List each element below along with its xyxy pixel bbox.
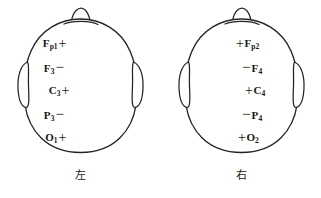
caption-left: 左 <box>0 166 160 182</box>
head-figure-left: Fp1+ F3− C3+ P3− O1+ 左 <box>0 0 160 198</box>
head-outline <box>185 19 298 153</box>
ear-left-icon <box>179 62 190 108</box>
ear-right-icon <box>293 62 304 108</box>
head-outline <box>24 19 137 153</box>
head-drawing-right <box>161 0 321 170</box>
ear-right-icon <box>132 62 143 108</box>
head-drawing-left <box>0 0 160 170</box>
caption-right: 右 <box>161 166 321 182</box>
ear-left-icon <box>18 62 29 108</box>
head-figure-right: +Fp2 −F4 +C4 −P4 +O2 右 <box>161 0 321 198</box>
eeg-electrode-diagram: Fp1+ F3− C3+ P3− O1+ 左 +Fp2 −F4 +C4 −P4 … <box>0 0 321 198</box>
